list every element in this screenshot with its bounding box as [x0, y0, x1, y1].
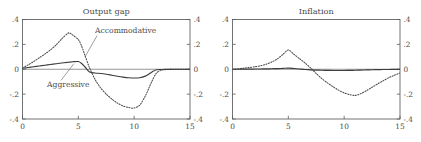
two-panel-impulse-response-chart: Output gap-.4-.4-.2-.200.2.2.4.4051015Ac… [0, 0, 421, 142]
panel-inflation: Inflation-.4-.4-.2-.200.2.2.4.4051015 [219, 6, 413, 131]
ytick-label-left-inflation-1: -.2 [219, 90, 229, 99]
panel-title-output-gap: Output gap [83, 6, 130, 16]
ytick-label-right-output-gap-0: -.4 [194, 115, 204, 124]
annotation-leader-aggressive [61, 64, 74, 81]
ytick-label-left-inflation-0: -.4 [219, 115, 229, 124]
xtick-label-output-gap-1: 5 [76, 122, 81, 131]
ytick-label-left-output-gap-1: -.2 [9, 90, 19, 99]
curves-output-gap [23, 33, 191, 108]
xtick-label-output-gap-3: 15 [185, 122, 195, 131]
ytick-label-left-output-gap-4: .4 [12, 15, 19, 24]
series-line-output-gap-accommodative [23, 33, 191, 108]
ytick-label-right-output-gap-3: .2 [194, 40, 201, 49]
ytick-label-right-output-gap-4: .4 [194, 15, 201, 24]
ytick-label-left-inflation-2: 0 [224, 65, 229, 74]
ytick-label-left-inflation-3: .2 [222, 40, 229, 49]
panel-title-inflation: Inflation [299, 6, 335, 16]
ytick-label-right-inflation-2: 0 [404, 65, 409, 74]
ytick-label-right-output-gap-2: 0 [194, 65, 199, 74]
curves-inflation [233, 50, 401, 95]
xtick-label-inflation-2: 10 [339, 122, 349, 131]
ytick-label-right-inflation-3: .2 [404, 40, 411, 49]
xtick-label-inflation-0: 0 [230, 122, 235, 131]
ytick-label-right-inflation-1: -.2 [404, 90, 414, 99]
ytick-label-left-output-gap-3: .2 [12, 40, 19, 49]
xtick-label-output-gap-0: 0 [20, 122, 25, 131]
figure-container: Output gap-.4-.4-.2-.200.2.2.4.4051015Ac… [0, 0, 421, 142]
ytick-label-right-output-gap-1: -.2 [194, 90, 204, 99]
xtick-label-inflation-3: 15 [395, 122, 405, 131]
ytick-label-right-inflation-0: -.4 [404, 115, 414, 124]
xtick-label-inflation-1: 5 [286, 122, 291, 131]
ytick-label-right-inflation-4: .4 [404, 15, 411, 24]
series-line-inflation-accommodative [233, 50, 401, 95]
xtick-label-output-gap-2: 10 [129, 122, 139, 131]
ytick-label-left-inflation-4: .4 [222, 15, 229, 24]
annotation-label-aggressive: Aggressive [46, 80, 90, 89]
annotation-leader-accommodative [85, 36, 97, 57]
ytick-label-left-output-gap-2: 0 [14, 65, 19, 74]
annotation-label-accommodative: Accommodative [94, 26, 157, 35]
series-line-output-gap-aggressive [23, 61, 191, 77]
panel-output-gap: Output gap-.4-.4-.2-.200.2.2.4.4051015Ac… [9, 6, 203, 131]
ytick-label-left-output-gap-0: -.4 [9, 115, 19, 124]
